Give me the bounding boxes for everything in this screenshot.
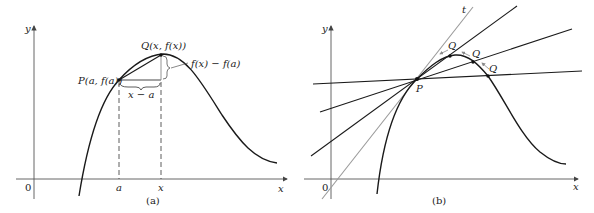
- point-q-2: [471, 60, 474, 63]
- caption-b: (b): [432, 195, 446, 206]
- secant-line-3: [313, 71, 582, 84]
- x-axis-label-b: x: [573, 181, 579, 192]
- point-q-label-a: Q(x, f(x)): [141, 40, 186, 51]
- q-label-2: Q: [472, 48, 480, 59]
- tangent-line: [322, 7, 473, 199]
- q-label-1: Q: [448, 40, 456, 51]
- point-q-3: [486, 74, 489, 77]
- tangent-label: t: [462, 4, 467, 15]
- point-q-1: [448, 54, 451, 57]
- q-label-3: Q: [489, 63, 497, 74]
- caption-a: (a): [146, 195, 160, 206]
- rise-label: f(x) − f(a): [190, 58, 240, 69]
- run-label: x − a: [128, 89, 154, 100]
- tick-x-label: x: [158, 182, 164, 193]
- point-p-b: [415, 77, 419, 81]
- origin-label-a: 0: [25, 182, 31, 193]
- secant-tangent-diagram: y x 0 P(a, f(a)) Q(x, f(x)) f(x) − f(a) …: [0, 0, 594, 213]
- x-axis-label-a: x: [278, 183, 284, 194]
- approach-arrow-3: [482, 63, 489, 69]
- rise-brace: [163, 56, 170, 79]
- rise-leader: [171, 63, 188, 68]
- panel-a: y x 0 P(a, f(a)) Q(x, f(x)) f(x) − f(a) …: [16, 23, 287, 206]
- panel-b: y x 0 t P Q Q Q (b): [304, 4, 582, 206]
- point-q-a: [159, 53, 163, 57]
- y-axis-label-a: y: [24, 23, 31, 34]
- approach-arrow-1: [440, 50, 448, 54]
- point-p-label-a: P(a, f(a)): [77, 75, 122, 86]
- tick-a-label: a: [116, 182, 122, 193]
- point-p-label-b: P: [415, 83, 423, 94]
- y-axis-label-b: y: [321, 23, 328, 34]
- secant-line-a: [119, 55, 161, 80]
